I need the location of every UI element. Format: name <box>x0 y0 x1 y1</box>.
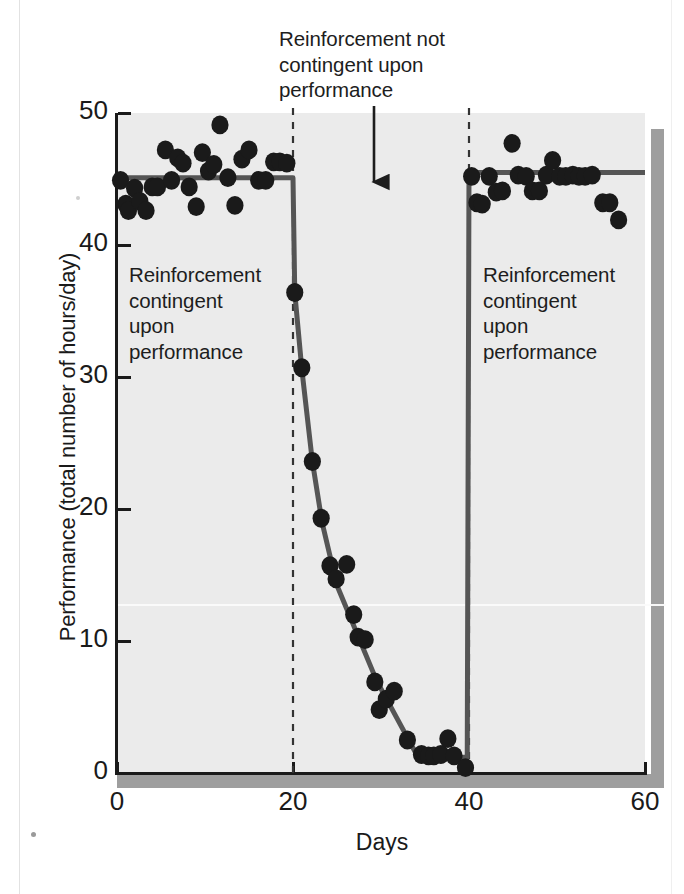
x-axis-tick-label: 20 <box>263 786 323 817</box>
figure-container: Reinforcement notcontingent uponperforma… <box>0 0 684 894</box>
y-axis-tick-label: 50 <box>48 95 108 126</box>
x-axis-tick-label: 0 <box>87 786 147 817</box>
speck-artifact-2 <box>76 196 80 200</box>
x-axis-tick <box>468 762 471 775</box>
x-axis-tick <box>292 762 295 775</box>
page-edge-rule-left <box>19 0 20 894</box>
plot-area <box>117 113 645 773</box>
x-axis-line <box>115 772 647 775</box>
y-axis-tick <box>118 508 131 511</box>
y-axis-line <box>115 113 118 775</box>
x-axis-tick <box>644 762 647 775</box>
x-axis-title: Days <box>292 829 472 856</box>
panel-shadow-bottom <box>117 774 664 788</box>
x-axis-tick <box>116 762 119 775</box>
annotation-phase3-reinforcement-contingent: Reinforcementcontingentuponperformance <box>483 262 653 364</box>
y-axis-tick <box>118 772 131 775</box>
y-axis-tick <box>118 244 131 247</box>
y-axis-tick <box>118 112 131 115</box>
annotation-reinforcement-not-contingent: Reinforcement notcontingent uponperforma… <box>279 26 529 103</box>
scan-line-artifact <box>118 604 666 606</box>
panel-shadow-right <box>651 129 664 777</box>
speck-artifact-1 <box>31 832 36 837</box>
y-axis-tick <box>118 376 131 379</box>
x-axis-tick-label: 60 <box>615 786 675 817</box>
page-edge-rule-right <box>671 0 672 894</box>
x-axis-tick-label: 40 <box>439 786 499 817</box>
y-axis-tick <box>118 640 131 643</box>
annotation-phase1-reinforcement-contingent: Reinforcementcontingentuponperformance <box>129 262 294 364</box>
y-axis-title: Performance (total number of hours/day) <box>55 147 81 747</box>
y-axis-tick-label: 0 <box>48 755 108 786</box>
